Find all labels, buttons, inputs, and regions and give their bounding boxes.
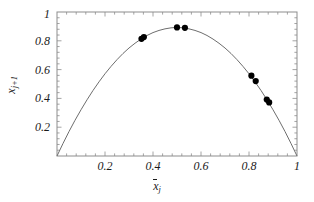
x-tick-label-0.8: 0.8 xyxy=(229,160,269,172)
data-point xyxy=(266,99,272,105)
y-tick-label-0.8: 0.8 xyxy=(6,35,50,47)
data-point xyxy=(182,25,188,31)
x-axis-title-subscript: j xyxy=(158,184,160,194)
x-tick-label-0.6: 0.6 xyxy=(181,160,221,172)
y-tick-label-0.2: 0.2 xyxy=(6,121,50,133)
y-tick-label-1: 1 xyxy=(6,8,50,20)
axis-ticks xyxy=(57,12,297,156)
logistic-map-curve xyxy=(57,27,297,156)
data-point-group xyxy=(138,24,272,105)
x-tick-label-0.2: 0.2 xyxy=(85,160,125,172)
x-axis-title: xj xyxy=(0,180,314,194)
chart-figure: 1 0.8 0.6 0.4 0.2 0.2 0.4 0.6 0.8 1 xj x… xyxy=(0,0,314,202)
x-tick-label-1: 1 xyxy=(277,160,314,172)
data-point xyxy=(141,34,147,40)
x-tick-label-0.4: 0.4 xyxy=(133,160,173,172)
data-point xyxy=(174,24,180,30)
data-point xyxy=(248,73,254,79)
y-axis-title-subscript: j+1 xyxy=(9,76,19,88)
data-point xyxy=(253,78,259,84)
x-axis-title-base: x xyxy=(153,180,158,192)
y-axis-title-base: x xyxy=(4,88,18,93)
plot-frame xyxy=(57,12,297,156)
y-axis-title: xj+1 xyxy=(5,55,19,115)
